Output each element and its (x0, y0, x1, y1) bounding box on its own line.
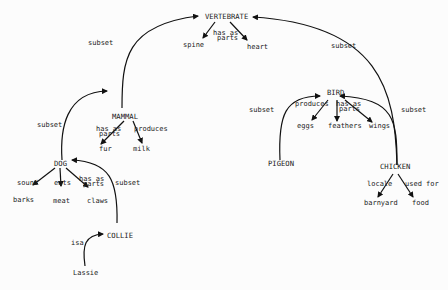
node-spine: spine (183, 42, 204, 49)
edge-label-mammal-parts: parts (99, 131, 120, 138)
edge-label-bird-produces: produces (295, 101, 329, 108)
node-barnyard: barnyard (364, 200, 398, 207)
node-eggs: eggs (297, 123, 314, 130)
node-wings: wings (369, 123, 390, 130)
edge-label-chicken-bird: subset (401, 107, 426, 114)
node-lassie: Lassie (73, 270, 98, 277)
node-bird: BIRD (327, 89, 344, 96)
node-fur: fur (99, 146, 112, 153)
semantic-network-diagram: VERTEBRATE spine heart MAMMAL fur milk B… (0, 0, 448, 290)
edge-label-vertebrate-parts: parts (217, 35, 238, 42)
node-milk: milk (133, 146, 150, 153)
edge-label-bird-parts: parts (339, 106, 360, 113)
edge-label-mammal-produces: produces (134, 126, 168, 133)
edge-label-mammal-vertebrate: subset (88, 40, 113, 47)
node-chicken: CHICKEN (380, 163, 410, 170)
node-food: food (412, 200, 429, 207)
edge-label-lassie-collie: isa (71, 240, 84, 247)
edge-label-dog-mammal: subset (37, 122, 62, 129)
edge-label-bird-vertebrate: subset (331, 43, 356, 50)
node-collie: COLLIE (107, 232, 133, 239)
edge-label-chicken-used-for: used for (405, 181, 439, 188)
node-heart: heart (247, 44, 268, 51)
node-dog: DOG (54, 160, 67, 167)
edge-label-dog-parts: parts (83, 181, 104, 188)
node-claws: claws (87, 198, 108, 205)
edge-label-chicken-locale: locale (367, 181, 392, 188)
node-barks: barks (13, 197, 34, 204)
edge-label-dog-eats: eats (54, 180, 71, 187)
edges-layer (0, 0, 448, 290)
edge-label-pigeon-bird: subset (249, 107, 274, 114)
node-feathers: feathers (328, 123, 362, 130)
node-pigeon: PIGEON (268, 160, 294, 167)
node-mammal: MAMMAL (112, 113, 138, 120)
edge-label-dog-sound: sound (17, 180, 38, 187)
node-vertebrate: VERTEBRATE (205, 13, 248, 20)
edge-label-collie-dog: subset (115, 180, 140, 187)
node-meat: meat (53, 198, 70, 205)
